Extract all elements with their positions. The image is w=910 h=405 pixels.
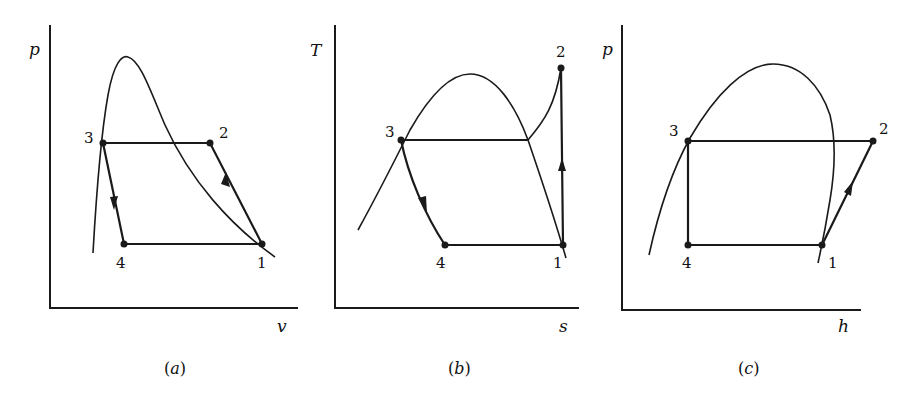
panel-a-point-2 bbox=[207, 140, 214, 147]
panel-c-caption-letter: c bbox=[744, 359, 753, 378]
panel-a-label-2: 2 bbox=[219, 126, 229, 141]
panel-a-label-4: 4 bbox=[116, 256, 126, 271]
panel-a-label-1: 1 bbox=[257, 256, 267, 271]
panel-b-point-1 bbox=[560, 242, 567, 249]
panel-b-caption: (b) bbox=[448, 361, 471, 377]
panel-a-caption-letter: a bbox=[170, 359, 180, 378]
panel-c-plot bbox=[622, 25, 877, 310]
panel-a-point-4 bbox=[121, 241, 128, 248]
panel-b-point-2 bbox=[558, 65, 565, 72]
panel-c-point-1 bbox=[819, 242, 826, 249]
panel-c-caption: (c) bbox=[738, 361, 759, 377]
panel-c-label-2: 2 bbox=[879, 122, 889, 137]
panel-b-label-3: 3 bbox=[385, 125, 395, 140]
panel-c-saturation-dome bbox=[649, 64, 834, 263]
panel-a-caption: (a) bbox=[164, 361, 186, 377]
panel-b-saturation-dome bbox=[358, 74, 566, 258]
panel-c-label-4: 4 bbox=[682, 256, 692, 271]
figure-canvas bbox=[0, 0, 910, 405]
panel-c-label-1: 1 bbox=[828, 256, 838, 271]
panel-a-y-axis-label: p bbox=[29, 41, 40, 58]
panel-b-arrow-down-icon bbox=[418, 196, 427, 214]
panel-b-cycle bbox=[401, 68, 563, 245]
panel-b-superheat-line bbox=[528, 68, 561, 140]
panel-a-label-3: 3 bbox=[84, 131, 94, 146]
panel-c-point-4 bbox=[685, 242, 692, 249]
panel-c-arrow-up-icon bbox=[844, 181, 853, 196]
panel-c-x-axis-label: h bbox=[838, 318, 849, 335]
panel-c-point-2 bbox=[870, 138, 877, 145]
panel-b-caption-letter: b bbox=[454, 359, 464, 378]
panel-b-label-4: 4 bbox=[436, 256, 446, 271]
panel-b-label-1: 1 bbox=[553, 256, 563, 271]
panel-b-point-4 bbox=[442, 242, 449, 249]
panel-b-x-axis-label: s bbox=[559, 318, 568, 335]
panel-c-label-3: 3 bbox=[669, 124, 679, 139]
panel-a-x-axis-label: v bbox=[277, 318, 287, 335]
panel-b-point-3 bbox=[398, 137, 405, 144]
panel-c-axes bbox=[622, 25, 861, 310]
panel-a-point-3 bbox=[100, 140, 107, 147]
panel-c-cycle bbox=[688, 141, 873, 245]
panel-b-axes bbox=[335, 25, 579, 308]
panel-b-arrow-up-icon bbox=[558, 158, 566, 171]
panel-c-point-3 bbox=[685, 138, 692, 145]
panel-a-point-1 bbox=[259, 241, 266, 248]
panel-c-y-axis-label: p bbox=[602, 41, 613, 58]
panel-b-y-axis-label: T bbox=[310, 42, 321, 59]
panel-b-label-2: 2 bbox=[556, 45, 566, 60]
panel-b-plot bbox=[335, 25, 579, 308]
